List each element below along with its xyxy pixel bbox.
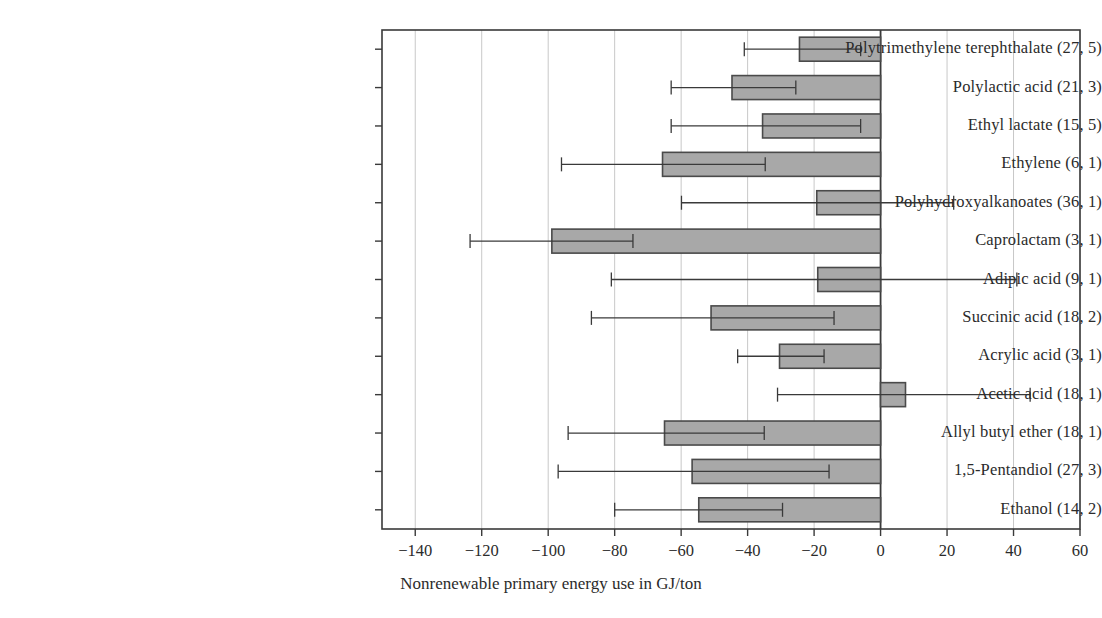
category-label: 1,5-Pentandiol (27, 3) xyxy=(730,462,1102,479)
category-label: Polyhydroxyalkanoates (36, 1) xyxy=(730,194,1102,211)
chart-container: Polytrimethylene terephthalate (27, 5)Po… xyxy=(0,0,1102,618)
category-label: Acetic acid (18, 1) xyxy=(730,386,1102,403)
category-label: Adipic acid (9, 1) xyxy=(730,271,1102,288)
x-axis-title: Nonrenewable primary energy use in GJ/to… xyxy=(0,574,1102,594)
category-label: Polytrimethylene terephthalate (27, 5) xyxy=(730,40,1102,57)
category-label: Succinic acid (18, 2) xyxy=(730,309,1102,326)
category-label: Ethanol (14, 2) xyxy=(730,501,1102,518)
category-label: Allyl butyl ether (18, 1) xyxy=(730,424,1102,441)
category-label: Acrylic acid (3, 1) xyxy=(730,347,1102,364)
category-label: Ethylene (6, 1) xyxy=(730,155,1102,172)
x-tick-label: 60 xyxy=(1040,541,1102,561)
category-label: Ethyl lactate (15, 5) xyxy=(730,117,1102,134)
category-label: Caprolactam (3, 1) xyxy=(730,232,1102,249)
category-label: Polylactic acid (21, 3) xyxy=(730,79,1102,96)
